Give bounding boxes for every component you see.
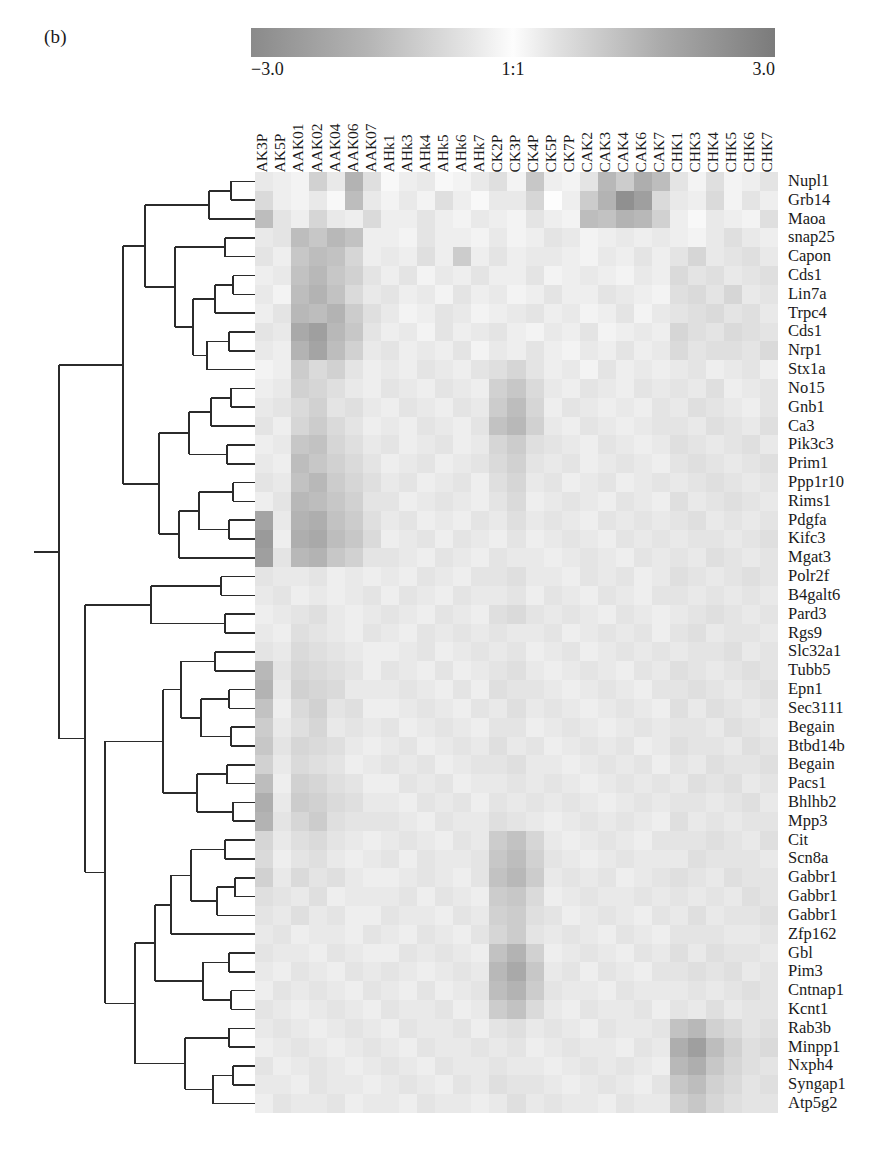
heatmap-cell xyxy=(363,887,381,906)
heatmap-cell xyxy=(327,473,345,492)
heatmap-cell xyxy=(399,774,417,793)
heatmap-cell xyxy=(544,323,562,342)
heatmap-cell xyxy=(634,530,652,549)
heatmap-cell xyxy=(273,831,291,850)
heatmap-cell xyxy=(507,417,525,436)
heatmap-cell xyxy=(742,1057,760,1076)
heatmap-cell xyxy=(742,850,760,869)
heatmap-cell xyxy=(291,228,309,247)
heatmap-cell xyxy=(309,511,327,530)
heatmap-cell xyxy=(453,1057,471,1076)
heatmap-cell xyxy=(381,1038,399,1057)
heatmap-cell xyxy=(706,680,724,699)
heatmap-cell xyxy=(544,304,562,323)
row-label-nupl1: Nupl1 xyxy=(788,173,829,190)
heatmap-cell xyxy=(255,304,273,323)
heatmap-cell xyxy=(309,398,327,417)
row-label-syngap1: Syngap1 xyxy=(788,1076,846,1093)
heatmap-cell xyxy=(634,718,652,737)
heatmap-cell xyxy=(291,774,309,793)
heatmap-cell xyxy=(273,548,291,567)
heatmap-cell xyxy=(616,266,634,285)
heatmap-cell xyxy=(616,210,634,229)
heatmap-cell xyxy=(526,925,544,944)
heatmap-cell xyxy=(453,1019,471,1038)
heatmap-cell xyxy=(652,962,670,981)
heatmap-cell xyxy=(544,1000,562,1019)
heatmap-cell xyxy=(760,1075,778,1094)
heatmap-cell xyxy=(291,1075,309,1094)
heatmap-cell xyxy=(544,1057,562,1076)
heatmap-cell xyxy=(706,530,724,549)
heatmap-cell xyxy=(742,812,760,831)
heatmap-cell xyxy=(652,285,670,304)
heatmap-cell xyxy=(507,1019,525,1038)
heatmap-cell xyxy=(507,962,525,981)
heatmap-cell xyxy=(670,1057,688,1076)
heatmap-cell xyxy=(507,492,525,511)
heatmap-cell xyxy=(435,774,453,793)
heatmap-cell xyxy=(381,398,399,417)
heatmap-cell xyxy=(688,228,706,247)
heatmap-cell xyxy=(526,737,544,756)
heatmap-cell xyxy=(670,1038,688,1057)
heatmap-cell xyxy=(724,454,742,473)
heatmap-cell xyxy=(417,774,435,793)
heatmap-cell xyxy=(706,718,724,737)
heatmap-cell xyxy=(526,586,544,605)
heatmap-cell xyxy=(363,172,381,191)
heatmap-cell xyxy=(580,379,598,398)
heatmap-cell xyxy=(309,210,327,229)
heatmap-cell xyxy=(489,1075,507,1094)
heatmap-cell xyxy=(526,887,544,906)
heatmap-cell xyxy=(255,473,273,492)
heatmap-cell xyxy=(724,831,742,850)
heatmap-cell xyxy=(453,850,471,869)
heatmap-cell xyxy=(724,737,742,756)
heatmap-cell xyxy=(417,1019,435,1038)
heatmap-cell xyxy=(291,812,309,831)
heatmap-cell xyxy=(291,793,309,812)
heatmap-cell xyxy=(255,210,273,229)
heatmap-cell xyxy=(255,247,273,266)
column-label-ck3p: CK3P xyxy=(506,134,522,172)
heatmap-cell xyxy=(507,1000,525,1019)
heatmap-cell xyxy=(399,812,417,831)
row-label-pdgfa: Pdgfa xyxy=(788,512,827,529)
heatmap-cell xyxy=(327,228,345,247)
heatmap-cell xyxy=(309,1057,327,1076)
heatmap-cell xyxy=(526,755,544,774)
heatmap-cell xyxy=(489,699,507,718)
heatmap-cell xyxy=(760,793,778,812)
heatmap-cell xyxy=(435,417,453,436)
heatmap-cell xyxy=(652,793,670,812)
heatmap-cell xyxy=(363,228,381,247)
heatmap-cell xyxy=(471,530,489,549)
heatmap-cell xyxy=(327,210,345,229)
heatmap-cell xyxy=(489,755,507,774)
column-label-chk4: CHK4 xyxy=(705,132,721,172)
heatmap-cell xyxy=(417,718,435,737)
heatmap-cell xyxy=(399,1057,417,1076)
heatmap-cell xyxy=(255,774,273,793)
heatmap-cell xyxy=(562,887,580,906)
heatmap-cell xyxy=(453,398,471,417)
heatmap-cell xyxy=(471,699,489,718)
heatmap-cell xyxy=(598,435,616,454)
heatmap-cell xyxy=(616,981,634,1000)
heatmap-cell xyxy=(562,680,580,699)
heatmap-cell xyxy=(363,812,381,831)
heatmap-cell xyxy=(544,247,562,266)
heatmap-cell xyxy=(634,586,652,605)
heatmap-cell xyxy=(598,530,616,549)
heatmap-cell xyxy=(471,887,489,906)
heatmap-cell xyxy=(327,304,345,323)
heatmap-cell xyxy=(634,831,652,850)
heatmap-cell xyxy=(471,925,489,944)
heatmap-cell xyxy=(706,624,724,643)
heatmap-cell xyxy=(670,981,688,1000)
heatmap-cell xyxy=(309,962,327,981)
heatmap-cell xyxy=(742,1038,760,1057)
heatmap-cell xyxy=(652,925,670,944)
heatmap-cell xyxy=(688,887,706,906)
